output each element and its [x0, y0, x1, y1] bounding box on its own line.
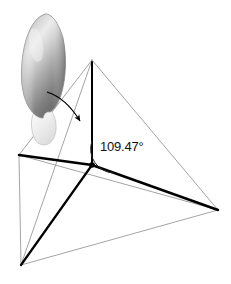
bond-left	[19, 155, 92, 165]
bond-angle-label: 109.47°	[100, 139, 144, 154]
orbital-major-lobe	[21, 14, 65, 118]
tetrahedral-orbital-diagram: 109.47°	[0, 0, 231, 284]
edge-left-right	[19, 155, 218, 210]
figure-root: 109.47°	[0, 0, 231, 284]
edge-left-bottomleft	[19, 155, 21, 265]
bond-bottomleft	[21, 165, 92, 265]
central-atom	[89, 162, 95, 168]
edge-bottomleft-right	[21, 210, 218, 265]
